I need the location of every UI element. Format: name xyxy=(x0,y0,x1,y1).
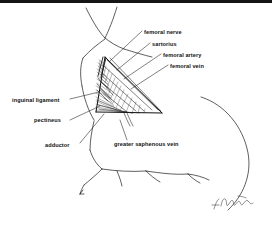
label-femoral-vein: femoral vein xyxy=(170,63,204,70)
signature-mark xyxy=(212,196,253,209)
label-femoral-artery: femoral artery xyxy=(163,52,201,59)
anatomy-drawing xyxy=(0,0,272,227)
leader-femoral-nerve xyxy=(110,31,142,61)
label-greater-saphenous-vein: greater saphenous vein xyxy=(114,141,179,148)
leader-femoral-vein xyxy=(131,65,168,89)
abdomen-contour xyxy=(83,7,152,58)
label-adductor: adductor xyxy=(45,142,70,149)
leader-lines-right xyxy=(110,31,168,89)
anatomy-figure: femoral nerve sartorius femoral artery f… xyxy=(0,0,272,227)
leader-adductor xyxy=(80,114,104,143)
thigh-contour-left xyxy=(81,58,94,120)
leader-pectineus xyxy=(70,106,100,120)
lower-leg-contour xyxy=(80,121,209,194)
label-inguinal-ligament: inguinal ligament xyxy=(12,97,59,104)
femoral-triangle-interior xyxy=(97,57,161,126)
label-sartorius: sartorius xyxy=(152,41,177,48)
thigh-contour-right xyxy=(201,97,249,210)
label-femoral-nerve: femoral nerve xyxy=(144,29,182,36)
leader-greater-saphenous-vein xyxy=(120,120,127,140)
leader-femoral-artery xyxy=(124,54,161,79)
leader-sartorius xyxy=(117,43,150,70)
label-pectineus: pectineus xyxy=(34,117,61,124)
